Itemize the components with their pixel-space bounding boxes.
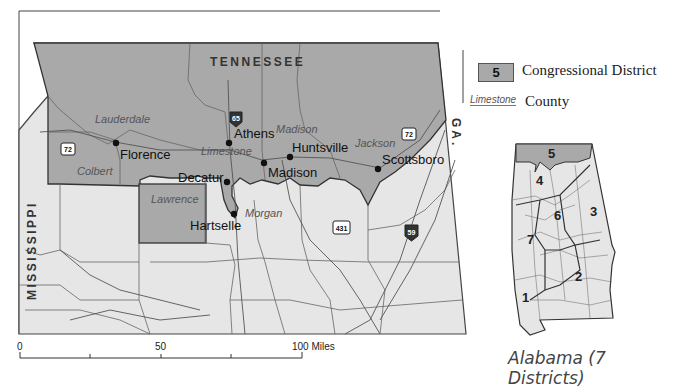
svg-text:72: 72: [405, 131, 413, 138]
state-label-tennessee: TENNESSEE: [210, 55, 305, 69]
svg-text:59: 59: [408, 229, 416, 236]
highway-us-431: 431: [333, 221, 350, 234]
scale-bar: 0 50 100 Miles: [17, 341, 335, 358]
scale-label-100: 100 Miles: [292, 341, 335, 352]
county-label-limestone: Limestone: [201, 145, 252, 157]
county-label-jackson: Jackson: [354, 137, 395, 149]
county-label-lauderdale: Lauderdale: [95, 113, 150, 125]
inset-title: Alabama (7 Districts): [508, 348, 679, 388]
highway-us-72-west: 72: [61, 143, 75, 155]
county-label-morgan: Morgan: [245, 207, 282, 219]
svg-text:65: 65: [232, 115, 240, 122]
inset-district-7: 7: [527, 232, 534, 247]
inset-district-3: 3: [590, 204, 597, 219]
legend-county-sample: Limestone: [470, 94, 516, 106]
state-label-mississippi: MISSISSIPPI: [25, 201, 39, 300]
svg-text:Madison: Madison: [268, 165, 317, 180]
legend-district-swatch: 5: [478, 63, 514, 82]
scale-label-0: 0: [17, 341, 23, 352]
inset-district-2: 2: [575, 269, 582, 284]
svg-text:Hartselle: Hartselle: [190, 218, 241, 233]
inset-district-4: 4: [536, 173, 544, 188]
svg-text:Huntsville: Huntsville: [292, 140, 348, 155]
svg-text:Florence: Florence: [120, 147, 171, 162]
svg-text:431: 431: [336, 225, 348, 232]
svg-text:Scottsboro: Scottsboro: [382, 152, 444, 167]
inset-district-5: 5: [548, 146, 555, 161]
scale-label-50: 50: [155, 341, 167, 352]
inset-district-1: 1: [522, 290, 529, 305]
svg-text:Athens: Athens: [234, 126, 275, 141]
county-label-colbert: Colbert: [77, 165, 113, 177]
highway-us-72-east: 72: [402, 128, 416, 140]
county-label-lawrence: Lawrence: [151, 193, 199, 205]
inset-district-6: 6: [554, 208, 561, 223]
city-decatur: Decatur: [178, 170, 230, 185]
county-label-madison: Madison: [276, 123, 318, 135]
svg-text:Decatur: Decatur: [178, 170, 224, 185]
svg-text:72: 72: [64, 146, 72, 153]
legend-district-label: Congressional District: [522, 62, 657, 79]
inset-alabama-map: 5 4 6 3 7 2 1: [512, 144, 615, 335]
legend-county-label: County: [525, 93, 569, 110]
state-label-georgia: GA.: [449, 118, 463, 148]
